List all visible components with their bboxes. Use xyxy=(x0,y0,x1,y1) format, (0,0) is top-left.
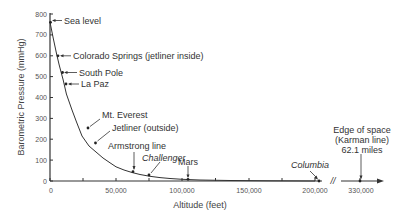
x-tick-100000: 100,000 xyxy=(169,187,194,194)
point-la-paz xyxy=(65,83,68,86)
y-tick-0: 0 xyxy=(43,178,47,185)
y-tick-700: 700 xyxy=(35,31,47,38)
x-tick-150000: 150,000 xyxy=(236,187,261,194)
x-tick-50000: 50,000 xyxy=(105,187,127,194)
x-tick-330000: 330,000 xyxy=(348,187,373,194)
x-tick-0: 0 xyxy=(49,187,53,194)
pressure-altitude-chart: 0 100 200 300 400 500 600 700 800 Barome… xyxy=(0,0,410,217)
y-tick-100: 100 xyxy=(35,157,47,164)
label-62-miles: 62.1 miles xyxy=(341,145,383,155)
annotation-labels: Sea level Colorado Springs (jetliner ins… xyxy=(64,16,391,171)
y-axis-title: Barometric Pressure (mmHg) xyxy=(16,38,26,155)
annotations xyxy=(52,19,363,180)
label-edge-of-space: Edge of space xyxy=(333,125,391,135)
label-mars: Mars xyxy=(178,157,198,167)
point-columbia xyxy=(318,180,321,183)
label-karman-line: (Karman line) xyxy=(335,135,389,145)
point-sea-level xyxy=(49,21,52,24)
x-axis-arrow-icon xyxy=(377,179,384,184)
point-challenger xyxy=(148,174,151,177)
point-south-pole xyxy=(61,71,64,74)
y-tick-500: 500 xyxy=(35,73,47,80)
point-jetliner xyxy=(94,142,97,145)
label-south-pole: South Pole xyxy=(79,68,123,78)
label-jetliner-outside: Jetliner (outside) xyxy=(112,123,179,133)
data-points xyxy=(49,21,361,183)
y-tick-labels: 0 100 200 300 400 500 600 700 800 xyxy=(35,11,47,185)
point-armstrong xyxy=(132,170,135,173)
label-colorado-springs: Colorado Springs (jetliner inside) xyxy=(73,51,204,61)
y-tick-800: 800 xyxy=(35,11,47,18)
x-axis-title: Altitude (feet) xyxy=(173,200,227,210)
point-karman xyxy=(359,180,362,183)
label-columbia: Columbia xyxy=(291,160,329,170)
y-tick-400: 400 xyxy=(35,94,47,101)
label-everest: Mt. Everest xyxy=(102,110,148,120)
point-colorado-springs xyxy=(57,54,60,57)
axis-break-mark: // xyxy=(329,176,337,186)
y-tick-200: 200 xyxy=(35,136,47,143)
label-armstrong-line: Armstrong line xyxy=(108,141,166,151)
point-everest xyxy=(87,127,90,130)
y-tick-600: 600 xyxy=(35,52,47,59)
point-mars xyxy=(187,178,190,181)
label-la-paz: La Paz xyxy=(81,79,110,89)
y-tick-300: 300 xyxy=(35,115,47,122)
x-tick-labels: 0 50,000 100,000 150,000 200,000 330,000 xyxy=(49,187,374,194)
label-sea-level: Sea level xyxy=(64,16,101,26)
x-tick-200000: 200,000 xyxy=(302,187,327,194)
